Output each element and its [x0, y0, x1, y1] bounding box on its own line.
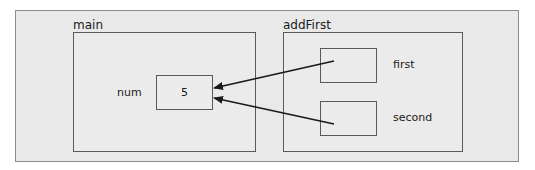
variable-value-num: 5 — [181, 86, 188, 99]
variable-cell-num: 5 — [156, 75, 213, 110]
variable-cell-second — [320, 101, 377, 136]
variable-label-first: first — [393, 59, 415, 71]
variable-label-num: num — [117, 87, 142, 99]
frame-label-main: main — [73, 19, 103, 31]
variable-label-second: second — [393, 112, 432, 124]
frame-label-addfirst: addFirst — [283, 19, 331, 31]
variable-cell-first — [320, 48, 377, 83]
